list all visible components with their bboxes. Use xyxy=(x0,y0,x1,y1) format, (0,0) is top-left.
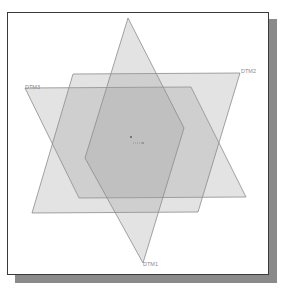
label-dtm2[interactable]: DTM2 xyxy=(241,68,256,74)
datum-plane-dtm1[interactable] xyxy=(85,18,184,263)
origin-arrow-icon xyxy=(142,142,143,143)
origin-point-icon xyxy=(130,136,132,138)
label-dtm1[interactable]: DTM1 xyxy=(143,261,158,267)
label-dtm3[interactable]: DTM3 xyxy=(25,84,40,90)
datum-planes-scene[interactable]: DTM1 DTM2 DTM3 xyxy=(0,0,283,292)
